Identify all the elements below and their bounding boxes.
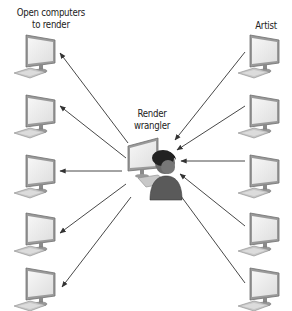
wrangler-to-open-arrows bbox=[60, 53, 131, 287]
artist-computer-5 bbox=[238, 268, 279, 311]
artist-computer-1 bbox=[238, 35, 279, 78]
person-icon bbox=[150, 150, 182, 200]
artist-to-wrangler-arrows bbox=[175, 52, 245, 283]
open-computer-1 bbox=[14, 35, 55, 78]
artist-computer-2 bbox=[238, 95, 279, 138]
open-computer-3 bbox=[14, 155, 55, 198]
open-computer-2 bbox=[14, 95, 55, 138]
open-computer-4 bbox=[14, 213, 55, 256]
open-computer-5 bbox=[14, 268, 55, 311]
render-wrangler bbox=[128, 138, 182, 200]
diagram-canvas bbox=[0, 0, 292, 311]
artist-computer-4 bbox=[238, 213, 279, 256]
